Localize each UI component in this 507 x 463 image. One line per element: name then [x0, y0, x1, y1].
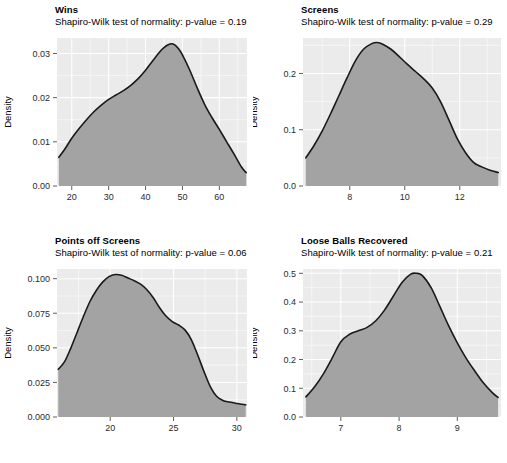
density-chart-screens: 0.00.10.281012Density: [253, 0, 507, 231]
y-tick-label: 0.025: [27, 378, 50, 388]
x-tick-label: 25: [169, 423, 179, 433]
x-tick-label: 40: [141, 192, 151, 202]
y-tick-label: 0.3: [283, 326, 296, 336]
x-tick-label: 60: [214, 192, 224, 202]
x-tick-label: 30: [104, 192, 114, 202]
density-chart-loose-balls-recovered: 0.00.10.20.30.40.5789Density: [253, 231, 507, 463]
x-tick-label: 12: [455, 192, 465, 202]
y-axis-label: Density: [253, 96, 259, 128]
facet-grid: Wins Shapiro-Wilk test of normality: p-v…: [0, 0, 507, 463]
x-tick-label: 8: [397, 423, 402, 433]
facet-panel-loose-balls-recovered: Loose Balls Recovered Shapiro-Wilk test …: [253, 231, 507, 463]
y-axis-label: Density: [2, 327, 13, 359]
y-tick-label: 0.01: [32, 137, 50, 147]
x-tick-label: 9: [455, 423, 460, 433]
x-tick-label: 8: [347, 192, 352, 202]
facet-panel-wins: Wins Shapiro-Wilk test of normality: p-v…: [0, 0, 253, 231]
y-tick-label: 0.0: [283, 412, 296, 422]
y-tick-label: 0.5: [283, 269, 296, 279]
x-tick-label: 20: [105, 423, 115, 433]
y-tick-label: 0.2: [283, 69, 296, 79]
y-tick-label: 0.050: [27, 343, 50, 353]
density-chart-wins: 0.000.010.020.032030405060Density: [0, 0, 253, 231]
x-tick-label: 20: [67, 192, 77, 202]
y-axis-label: Density: [253, 327, 259, 359]
y-tick-label: 0.1: [283, 384, 296, 394]
y-axis-label: Density: [2, 96, 13, 128]
y-tick-label: 0.03: [32, 49, 50, 59]
y-tick-label: 0.000: [27, 412, 50, 422]
y-tick-label: 0.2: [283, 355, 296, 365]
plot-area-screens: 0.00.10.281012Density: [253, 0, 507, 231]
y-tick-label: 0.4: [283, 297, 296, 307]
x-tick-label: 7: [338, 423, 343, 433]
y-tick-label: 0.1: [283, 125, 296, 135]
y-tick-label: 0.02: [32, 93, 50, 103]
plot-area-wins: 0.000.010.020.032030405060Density: [0, 0, 253, 231]
y-tick-label: 0.00: [32, 181, 50, 191]
x-tick-label: 50: [177, 192, 187, 202]
facet-panel-points-off-screens: Points off Screens Shapiro-Wilk test of …: [0, 231, 253, 463]
x-tick-label: 30: [232, 423, 242, 433]
x-tick-label: 10: [400, 192, 410, 202]
plot-area-loose-balls-recovered: 0.00.10.20.30.40.5789Density: [253, 231, 507, 463]
y-tick-label: 0.0: [283, 181, 296, 191]
plot-area-points-off-screens: 0.0000.0250.0500.0750.100202530Density: [0, 231, 253, 463]
facet-panel-screens: Screens Shapiro-Wilk test of normality: …: [253, 0, 507, 231]
y-tick-label: 0.075: [27, 309, 50, 319]
y-tick-label: 0.100: [27, 274, 50, 284]
density-chart-points-off-screens: 0.0000.0250.0500.0750.100202530Density: [0, 231, 253, 463]
